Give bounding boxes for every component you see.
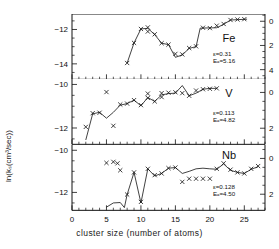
y-ticks-right: 02 [260,84,274,138]
y-axis-label-left-text: ln(kₛ(cm³/sec)) [4,130,13,182]
svg-text:0: 0 [269,154,274,163]
x-tick-labels: 0510152025 [70,215,250,224]
panel-element-label-v: V [225,87,233,99]
svg-text:0: 0 [70,215,75,224]
svg-text:−12: −12 [54,124,68,133]
svg-text:0: 0 [269,89,274,98]
panel-activation-energy-v: Eₐ=4.82 [213,117,236,124]
panel-svg-fe: −12−14024Feε=0.31Eₐ=5.16 [42,14,279,79]
panel-svg-nb: 0510152025−10−1202Nbε=0.128Eₐ=4.50 [42,145,279,226]
panel-epsilon-fe: ε=0.31 [213,50,232,57]
svg-text:2: 2 [269,41,274,50]
svg-text:5: 5 [104,215,109,224]
svg-text:−14: −14 [54,60,68,69]
svg-text:20: 20 [205,215,214,224]
svg-text:−10: −10 [54,146,68,155]
svg-text:−12: −12 [54,25,68,34]
x-ticks [72,205,265,210]
x-axis-label: cluster size (number of atoms) [0,228,279,238]
svg-text:−10: −10 [54,81,68,90]
panel-fe: −12−14024Feε=0.31Eₐ=5.16 [42,14,235,79]
panel-activation-energy-fe: Eₐ=5.16 [213,57,236,64]
svg-text:25: 25 [240,215,249,224]
panel-v: −10−1202Vε=0.113Eₐ=4.82 [42,79,235,144]
svg-text:2: 2 [269,190,274,199]
svg-text:2: 2 [269,125,274,134]
y-ticks-right: 024 [260,15,274,75]
panel-stack: −12−14024Feε=0.31Eₐ=5.16−10−1202Vε=0.113… [42,14,235,210]
data-points [84,87,219,130]
svg-text:10: 10 [136,215,145,224]
y-ticks-left: −10−12 [54,81,77,139]
panel-svg-v: −10−1202Vε=0.113Eₐ=4.82 [42,79,279,144]
panel-epsilon-v: ε=0.113 [213,109,235,116]
panel-element-label-fe: Fe [223,32,236,44]
panel-epsilon-nb: ε=0.128 [213,183,235,190]
svg-text:0: 0 [269,17,274,26]
svg-text:4: 4 [269,66,274,75]
figure-container: ln(kₛ(cm³/sec)) −12−14024Feε=0.31Eₐ=5.16… [0,0,279,249]
axis-frame [72,14,265,79]
y-ticks-left: −10−12 [54,146,77,203]
panel-element-label-nb: Nb [222,149,236,161]
y-ticks-right: 02 [260,149,274,203]
data-curve [86,86,217,140]
y-ticks-left: −12−14 [54,21,77,73]
panel-nb: 0510152025−10−1202Nbε=0.128Eₐ=4.50 [42,145,235,210]
svg-text:−12: −12 [54,188,68,197]
axis-frame [72,145,265,210]
svg-text:15: 15 [171,215,180,224]
panel-activation-energy-nb: Eₐ=4.50 [213,190,236,197]
data-points [104,159,260,203]
